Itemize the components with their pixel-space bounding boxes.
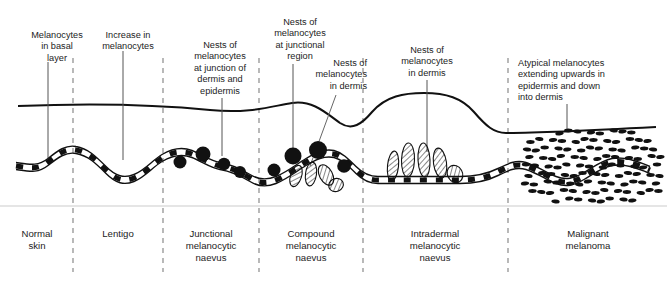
atypical-melanocyte bbox=[643, 139, 652, 144]
atypical-melanocyte bbox=[591, 191, 599, 195]
atypical-melanocyte bbox=[601, 173, 610, 178]
atypical-melanocyte bbox=[563, 147, 572, 152]
atypical-melanocyte bbox=[579, 156, 588, 161]
atypical-melanocyte bbox=[553, 166, 561, 170]
atypical-melanocyte bbox=[535, 137, 544, 142]
atypical-melanocyte bbox=[548, 157, 557, 162]
atypical-melanocyte bbox=[606, 181, 615, 186]
section-label-compound-melanocytic-naevus: Compound melanocytic naevus bbox=[256, 228, 366, 264]
atypical-melanocyte bbox=[654, 189, 662, 193]
atypical-melanocyte bbox=[647, 154, 656, 159]
atypical-melanocyte bbox=[645, 188, 654, 193]
atypical-melanocyte bbox=[526, 140, 534, 144]
atypical-melanocyte bbox=[640, 147, 648, 151]
atypical-melanocyte bbox=[631, 145, 640, 150]
dermal-nest bbox=[401, 143, 415, 177]
atypical-melanocyte bbox=[561, 173, 570, 178]
atypical-melanocyte bbox=[571, 155, 579, 159]
atypical-melanocyte bbox=[596, 132, 604, 136]
atypical-melanocyte bbox=[603, 139, 612, 144]
annotation-nests-of-melanocytes-in-dermis-compound: Nests of melanocytes in dermis bbox=[297, 58, 367, 92]
atypical-melanocyte bbox=[602, 154, 610, 158]
atypical-melanocyte bbox=[524, 174, 533, 179]
atypical-melanocyte bbox=[619, 197, 628, 202]
atypical-melanocyte bbox=[594, 146, 603, 151]
atypical-melanocyte bbox=[554, 146, 563, 151]
atypical-melanocyte bbox=[528, 189, 536, 193]
section-label-malignant-melanoma: Malignant melanoma bbox=[533, 228, 643, 252]
atypical-melanocyte bbox=[615, 174, 623, 178]
annotation-increase-in-melanocytes: Increase in melanocytes bbox=[85, 30, 171, 53]
atypical-melanocyte bbox=[612, 140, 621, 145]
atypical-melanocyte bbox=[634, 138, 643, 143]
annotation-atypical-melanocytes-extending: Atypical melanocytes extending upwards i… bbox=[518, 58, 650, 104]
junctional-nest bbox=[309, 141, 327, 159]
junctional-nest bbox=[174, 156, 187, 169]
atypical-melanocyte bbox=[632, 172, 641, 177]
annotation-nests-at-junctional-region: Nests of melanocytes at junctional regio… bbox=[258, 17, 342, 63]
atypical-melanocyte bbox=[562, 162, 571, 167]
atypical-melanocyte bbox=[614, 189, 623, 194]
atypical-melanocyte bbox=[544, 164, 553, 169]
atypical-melanocyte bbox=[656, 155, 665, 160]
atypical-melanocyte bbox=[620, 182, 629, 187]
atypical-melanocyte bbox=[649, 147, 658, 152]
junctional-nest bbox=[285, 148, 302, 165]
atypical-melanocyte bbox=[523, 147, 532, 152]
atypical-melanocyte bbox=[549, 138, 558, 143]
atypical-melanocyte bbox=[605, 197, 613, 201]
atypical-melanocyte bbox=[629, 180, 637, 184]
atypical-melanocyte bbox=[586, 145, 595, 150]
atypical-melanocyte bbox=[653, 163, 661, 167]
atypical-melanocyte bbox=[540, 146, 548, 150]
atypical-melanocyte bbox=[584, 179, 593, 184]
atypical-melanocyte bbox=[577, 149, 585, 153]
atypical-melanocyte bbox=[589, 138, 597, 142]
section-label-junctional-melanocytic-naevus: Junctional melanocytic naevus bbox=[156, 228, 266, 264]
atypical-melanocyte bbox=[627, 131, 635, 135]
section-label-intradermal-melanocytic-naevus: Intradermal melanocytic naevus bbox=[380, 228, 490, 264]
dermal-nest bbox=[431, 147, 448, 179]
atypical-melanocyte bbox=[564, 129, 572, 133]
atypical-melanocyte bbox=[546, 191, 555, 196]
atypical-melanocyte bbox=[628, 198, 637, 203]
annotation-nests-at-junction-of-dermis-and-epidermis: Nests of melanocytes at junction of derm… bbox=[176, 40, 264, 97]
atypical-melanocyte bbox=[646, 173, 654, 177]
atypical-melanocyte bbox=[558, 139, 566, 143]
atypical-melanocyte bbox=[623, 190, 631, 194]
atypical-melanocyte bbox=[537, 190, 546, 195]
atypical-melanocyte bbox=[617, 148, 626, 153]
atypical-melanocyte bbox=[560, 188, 568, 192]
atypical-melanocyte bbox=[525, 155, 534, 160]
atypical-melanocyte bbox=[551, 199, 560, 204]
junctional-nest bbox=[218, 158, 230, 170]
atypical-melanocyte bbox=[531, 148, 540, 153]
atypical-melanocyte bbox=[652, 181, 661, 186]
atypical-melanocyte bbox=[565, 196, 574, 201]
junctional-nest bbox=[234, 166, 246, 178]
atypical-melanocyte bbox=[576, 163, 585, 168]
atypical-melanocyte bbox=[580, 137, 589, 142]
atypical-melanocyte bbox=[539, 156, 547, 160]
junctional-nest bbox=[196, 147, 211, 162]
atypical-melanocyte bbox=[568, 189, 577, 194]
atypical-melanocyte bbox=[596, 199, 605, 204]
atypical-melanocyte bbox=[593, 157, 602, 162]
atypical-melanocyte bbox=[598, 181, 606, 185]
atypical-melanocyte bbox=[582, 190, 591, 195]
malignant-melanoma-cells bbox=[521, 128, 665, 204]
junctional-nest bbox=[268, 164, 281, 177]
atypical-melanocyte bbox=[530, 183, 538, 187]
figure-root: Melanocytes in basal layerIncrease in me… bbox=[0, 0, 667, 287]
atypical-melanocyte bbox=[624, 171, 633, 176]
atypical-melanocyte bbox=[521, 181, 530, 186]
dermal-nest bbox=[417, 143, 431, 178]
atypical-melanocyte bbox=[574, 198, 582, 202]
atypical-melanocyte bbox=[626, 137, 634, 141]
junctional-nest bbox=[337, 159, 351, 173]
atypical-melanocyte bbox=[557, 154, 566, 159]
atypical-melanocyte bbox=[571, 140, 580, 145]
atypical-melanocyte bbox=[600, 188, 609, 193]
atypical-melanocyte bbox=[636, 191, 645, 196]
atypical-melanocyte bbox=[588, 198, 597, 203]
